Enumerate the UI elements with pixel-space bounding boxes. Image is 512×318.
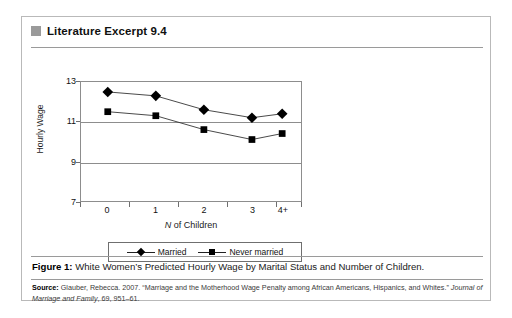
- x-tick-label: 1: [153, 205, 158, 215]
- chart: Hourly Wage 13 11 9 7: [22, 50, 492, 250]
- figure-page: Literature Excerpt 9.4 Hourly Wage 13 11…: [0, 0, 512, 318]
- plot-area: [80, 81, 302, 202]
- x-tick-label: 3: [250, 205, 255, 215]
- source-text: Glauber, Rebecca. 2007. “Marriage and th…: [59, 283, 451, 292]
- x-axis-ticks: 0 1 2 3 4+: [80, 205, 302, 221]
- source-label: Source:: [32, 283, 59, 292]
- x-tick-label: 0: [104, 205, 109, 215]
- literature-excerpt-card: Literature Excerpt 9.4 Hourly Wage 13 11…: [21, 16, 491, 301]
- source-divider: [31, 279, 483, 280]
- x-tick-label: 2: [201, 205, 206, 215]
- y-axis-ticks: 13 11 9 7: [50, 81, 76, 202]
- source-citation: Source: Glauber, Rebecca. 2007. “Marriag…: [32, 283, 484, 304]
- x-axis-title-rest: of Children: [171, 220, 217, 230]
- series-line-never-married: [108, 112, 282, 140]
- x-tick-label: 4+: [278, 205, 288, 215]
- markers-married: [102, 87, 287, 123]
- square-bullet-icon: [31, 26, 41, 36]
- chart-legend: Married Never married: [108, 242, 302, 262]
- y-tick-label: 11: [52, 116, 76, 126]
- card-title: Literature Excerpt 9.4: [47, 25, 167, 37]
- header-divider: [31, 47, 483, 48]
- card-header: Literature Excerpt 9.4: [22, 17, 490, 45]
- figure-caption: Figure 1: White Women’s Predicted Hourly…: [32, 261, 484, 272]
- x-axis-title: N of Children: [80, 220, 302, 230]
- figure-caption-text: White Women’s Predicted Hourly Wage by M…: [75, 261, 424, 272]
- caption-divider: [31, 256, 483, 257]
- series-plot: [81, 82, 301, 201]
- y-tick-label: 7: [52, 197, 76, 207]
- y-tick-label: 9: [52, 157, 76, 167]
- y-axis-title: Hourly Wage: [35, 89, 45, 169]
- figure-caption-label: Figure 1:: [32, 261, 73, 272]
- y-tick-label: 13: [52, 76, 76, 86]
- source-pages: , 69, 951–61.: [98, 294, 140, 303]
